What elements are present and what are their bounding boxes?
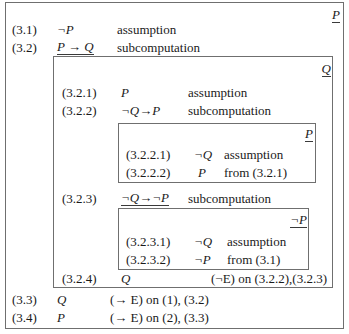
line-label: (3.2.3.1) (126, 233, 170, 251)
line-formula: ¬P (194, 251, 211, 269)
line-label: (3.2.4) (62, 270, 97, 288)
line-formula: ¬Q (194, 233, 212, 251)
line-formula: P (57, 309, 65, 327)
line-justification: assumption (117, 21, 176, 39)
line-formula: P (198, 164, 206, 182)
proof-line: (3.3) Q (→ E) on (1), (3.2) (0, 291, 349, 309)
line-justification: (→ E) on (1), (3.2) (110, 291, 209, 309)
line-formula: ¬P (57, 21, 74, 39)
line-justification: assumption (188, 84, 247, 102)
subproof-q-goal-label: Q (322, 62, 331, 77)
proof-line: (3.2.3.2) ¬P from (3.1) (0, 251, 349, 269)
line-label: (3.2.2.2) (126, 164, 170, 182)
proof-line: (3.2) P → Q subcomputation (0, 39, 349, 57)
line-justification: from (3.1) (227, 251, 280, 269)
proof-line: (3.1) ¬P assumption (0, 21, 349, 39)
line-label: (3.2.2) (62, 102, 97, 120)
subproof-p1-goal-label: P (305, 127, 313, 142)
proof-line: (3.2.2) ¬Q→P subcomputation (0, 102, 349, 120)
proof-line: (3.2.4) Q (¬E) on (3.2.2),(3.2.3) (0, 270, 349, 288)
line-justification: assumption (224, 146, 283, 164)
line-formula: ¬Q→P (121, 102, 160, 120)
line-formula: ¬Q (194, 146, 212, 164)
line-formula: ¬Q→¬P (121, 190, 169, 206)
line-justification: subcomputation (188, 190, 271, 208)
line-label: (3.2.3.2) (126, 251, 170, 269)
line-label: (3.2.1) (62, 84, 97, 102)
line-formula: Q (121, 270, 130, 288)
line-formula: Q (57, 291, 66, 309)
proof-line: (3.2.2.1) ¬Q assumption (0, 146, 349, 164)
line-formula: P (121, 84, 129, 102)
proof-line: (3.2.2.2) P from (3.2.1) (0, 164, 349, 182)
line-justification: from (3.2.1) (224, 164, 287, 182)
line-label: (3.3) (12, 291, 37, 309)
line-label: (3.2.3) (62, 190, 97, 208)
proof-line: (3.2.1) P assumption (0, 84, 349, 102)
line-justification: (¬E) on (3.2.2),(3.2.3) (185, 270, 327, 288)
proof-line: (3.2.3) ¬Q→¬P subcomputation (0, 190, 349, 208)
line-justification: subcomputation (117, 39, 200, 57)
line-justification: subcomputation (188, 102, 271, 120)
line-justification: (→ E) on (2), (3.3) (110, 309, 209, 327)
line-formula: P → Q (57, 39, 94, 55)
line-justification: assumption (227, 233, 286, 251)
line-label: (3.1) (12, 21, 37, 39)
proof-line: (3.4) P (→ E) on (2), (3.3) (0, 309, 349, 327)
subproof-p2-goal-label: ¬P (290, 213, 307, 228)
proof-diagram: P (3.1) ¬P assumption (3.2) P → Q subcom… (0, 0, 349, 334)
line-label: (3.2.2.1) (126, 146, 170, 164)
line-label: (3.4) (12, 309, 37, 327)
proof-line: (3.2.3.1) ¬Q assumption (0, 233, 349, 251)
line-label: (3.2) (12, 39, 37, 57)
